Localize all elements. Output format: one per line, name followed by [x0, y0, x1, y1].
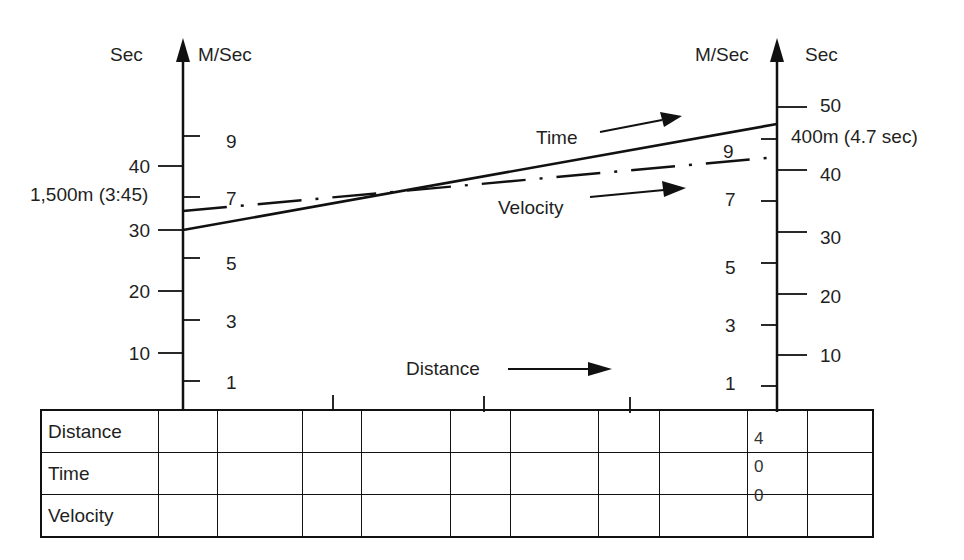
vertical-digit: 0	[754, 486, 763, 506]
left-sec-tick-label: 10	[110, 344, 150, 363]
end-point-annotation: 400m (4.7 sec)	[791, 127, 918, 146]
distance-arrow-icon	[508, 362, 612, 376]
table-cell[interactable]	[659, 453, 747, 495]
table-cell[interactable]	[659, 410, 747, 453]
time-series-line	[183, 124, 777, 230]
table-cell[interactable]	[659, 495, 747, 538]
table-row-distance: Distance	[41, 410, 873, 453]
table-cell[interactable]	[510, 410, 598, 453]
left-axis-arrow-icon	[176, 38, 190, 62]
vertical-digit: 4	[754, 429, 763, 449]
right-mps-axis-title: M/Sec	[695, 45, 749, 64]
table-cell[interactable]	[361, 453, 450, 495]
vertical-digit: 0	[754, 457, 763, 477]
row-header-time: Time	[41, 453, 158, 495]
table-row-velocity: Velocity	[41, 495, 873, 538]
table-cell[interactable]	[217, 410, 302, 453]
table-cell[interactable]	[302, 495, 361, 538]
table-cell[interactable]	[302, 410, 361, 453]
table-cell[interactable]	[510, 495, 598, 538]
row-header-velocity: Velocity	[41, 495, 158, 538]
right-mps-tick-label: 7	[725, 190, 736, 209]
table-cell[interactable]	[807, 453, 873, 495]
time-series-label: Time	[536, 128, 578, 147]
left-mps-axis-title: M/Sec	[198, 45, 252, 64]
right-sec-tick-label: 30	[820, 228, 841, 247]
velocity-series-line	[183, 157, 777, 211]
table-cell[interactable]	[598, 495, 659, 538]
table-cell[interactable]	[807, 495, 873, 538]
table-cell[interactable]	[450, 410, 510, 453]
right-sec-axis-title: Sec	[805, 45, 838, 64]
table-cell[interactable]	[302, 453, 361, 495]
left-mps-tick-label: 3	[226, 312, 237, 331]
right-mps-tick-label: 3	[725, 316, 736, 335]
right-mps-tick-label: 1	[725, 374, 736, 393]
table-cell[interactable]	[807, 410, 873, 453]
right-mps-ticks	[761, 139, 777, 386]
right-mps-tick-label: 9	[723, 142, 734, 161]
right-sec-tick-label: 20	[820, 287, 841, 306]
table-cell[interactable]	[158, 453, 217, 495]
row-header-distance: Distance	[41, 410, 158, 453]
distance-axis-label: Distance	[406, 359, 480, 378]
right-sec-tick-label: 50	[820, 96, 841, 115]
table-cell[interactable]	[217, 453, 302, 495]
table-cell[interactable]	[450, 453, 510, 495]
table-cell[interactable]	[217, 495, 302, 538]
left-sec-tick-label: 30	[110, 221, 150, 240]
right-mps-tick-label: 5	[725, 258, 736, 277]
start-point-annotation: 1,500m (3:45)	[30, 185, 148, 204]
data-table: Distance Time Velocity	[40, 409, 874, 538]
left-mps-tick-label: 1	[226, 373, 237, 392]
table-row-time: Time	[41, 453, 873, 495]
left-sec-tick-label: 20	[110, 282, 150, 301]
table-cell[interactable]	[158, 410, 217, 453]
right-sec-tick-label: 40	[820, 165, 841, 184]
left-sec-ticks	[158, 166, 183, 353]
table-cell[interactable]	[450, 495, 510, 538]
table-cell[interactable]	[361, 410, 450, 453]
right-axis-arrow-icon	[770, 38, 784, 62]
left-sec-tick-label: 40	[110, 157, 150, 176]
table-cell[interactable]	[598, 453, 659, 495]
velocity-series-label: Velocity	[498, 198, 563, 217]
table-cell[interactable]	[158, 495, 217, 538]
right-sec-tick-label: 10	[820, 346, 841, 365]
table-cell[interactable]	[510, 453, 598, 495]
left-mps-ticks	[183, 136, 200, 381]
left-mps-tick-label: 5	[226, 254, 237, 273]
left-sec-axis-title: Sec	[110, 45, 143, 64]
table-cell[interactable]	[361, 495, 450, 538]
left-mps-tick-label: 7	[226, 189, 237, 208]
table-cell[interactable]	[598, 410, 659, 453]
velocity-arrow-icon	[590, 181, 686, 197]
left-mps-tick-label: 9	[226, 132, 237, 151]
time-arrow-icon	[600, 112, 682, 132]
